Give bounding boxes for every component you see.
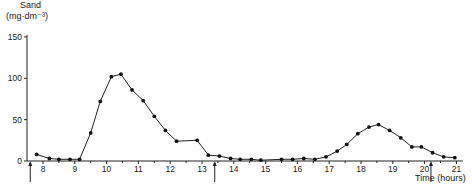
data-point: [98, 100, 102, 104]
x-tick-label: 12: [165, 164, 175, 174]
data-point: [377, 123, 381, 127]
data-point: [229, 157, 233, 161]
data-point: [141, 99, 145, 103]
data-point: [175, 139, 179, 143]
y-axis-title: Sand: [20, 0, 41, 10]
data-point: [442, 155, 446, 159]
data-point: [152, 114, 156, 118]
data-point: [324, 155, 328, 159]
x-tick-label: 17: [324, 164, 334, 174]
x-tick-label: 8: [41, 164, 46, 174]
y-tick-label: 150: [8, 32, 22, 42]
data-point: [410, 145, 414, 149]
data-point: [249, 157, 253, 161]
data-point: [388, 129, 392, 133]
data-point: [218, 154, 222, 158]
data-point: [206, 153, 210, 157]
x-tick-label: 14: [229, 164, 239, 174]
data-point: [345, 143, 349, 147]
x-axis-title: Time (hours): [415, 173, 466, 183]
data-point: [367, 125, 371, 129]
data-point: [313, 157, 317, 161]
x-tick-label: 11: [134, 164, 143, 174]
series-line: [35, 72, 457, 162]
data-point: [453, 156, 457, 160]
y-tick-label: 0: [17, 156, 22, 166]
data-point: [68, 157, 72, 161]
data-point: [47, 157, 51, 161]
x-tick-label: 9: [72, 164, 77, 174]
data-point: [119, 72, 123, 76]
x-tick-label: 18: [356, 164, 366, 174]
data-point: [57, 157, 61, 161]
data-line: [37, 74, 455, 160]
data-point: [280, 157, 284, 161]
data-point: [78, 157, 82, 161]
x-tick-label: 19: [388, 164, 398, 174]
data-point: [420, 145, 424, 149]
y-tick-label: 100: [8, 73, 22, 83]
y-tick-label: 50: [13, 115, 23, 125]
data-point: [35, 152, 39, 156]
data-point: [164, 129, 168, 133]
x-tick-label: 13: [197, 164, 207, 174]
data-point: [335, 149, 339, 153]
data-point: [291, 157, 295, 161]
x-tick-label: 16: [293, 164, 303, 174]
data-point: [302, 157, 306, 161]
data-point: [399, 136, 403, 140]
data-point: [431, 151, 435, 155]
data-point: [130, 88, 134, 92]
data-point: [356, 132, 360, 136]
arrowhead-icon: [28, 161, 32, 166]
data-point: [89, 131, 93, 135]
arrowhead-icon: [213, 161, 217, 166]
data-point: [195, 138, 199, 142]
sand-concentration-chart: 05010015089101112131415161718192021: [0, 0, 472, 190]
data-point: [109, 75, 113, 79]
x-tick-label: 15: [261, 164, 271, 174]
data-point: [238, 157, 242, 161]
y-axis-unit: (mg·dm⁻³): [6, 11, 48, 21]
x-tick-label: 10: [102, 164, 112, 174]
arrowhead-icon: [429, 161, 433, 166]
data-point: [259, 158, 263, 162]
